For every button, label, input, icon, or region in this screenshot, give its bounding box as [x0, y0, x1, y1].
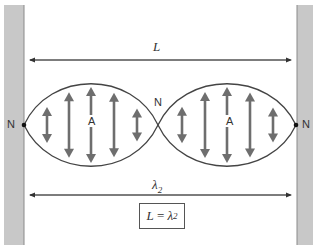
- wavelength-subscript: 2: [158, 185, 163, 195]
- formula-box: L = λ2: [139, 203, 185, 229]
- node-label-right: N: [302, 118, 310, 130]
- arrow-down-icon: [132, 132, 142, 141]
- arrow-down-icon: [245, 149, 255, 158]
- antinode-label-right: A: [225, 115, 234, 127]
- arrow-down-icon: [42, 134, 52, 143]
- arrow-up-icon: [42, 107, 52, 116]
- arrow-down-icon: [200, 149, 210, 158]
- formula-equals: =: [154, 208, 168, 224]
- node-dot-left: [22, 123, 27, 128]
- arrow-down-icon: [64, 149, 74, 158]
- arrow-up-icon: [200, 92, 210, 101]
- arrow-up-icon: [64, 92, 74, 101]
- length-label: L: [153, 39, 160, 55]
- wavelength-label: λ2: [152, 177, 162, 195]
- arrow-up-icon: [177, 107, 187, 116]
- arrow-down-icon: [109, 148, 119, 157]
- arrow-up-icon: [222, 87, 232, 96]
- arrow-down-icon: [177, 134, 187, 143]
- arrow-down-icon: [86, 154, 96, 163]
- arrow-up-icon: [109, 93, 119, 102]
- formula-lhs: L: [146, 208, 153, 224]
- node-label-middle: N: [154, 96, 162, 108]
- arrow-up-icon: [132, 109, 142, 118]
- arrow-up-icon: [245, 92, 255, 101]
- arrow-up-icon: [86, 87, 96, 96]
- arrow-up-icon: [268, 108, 278, 117]
- node-dot-right: [294, 123, 299, 128]
- antinode-label-left: A: [87, 115, 96, 127]
- arrow-down-icon: [268, 134, 278, 143]
- formula-rhs-subscript: 2: [173, 211, 178, 221]
- node-label-left: N: [7, 118, 15, 130]
- arrow-down-icon: [222, 154, 232, 163]
